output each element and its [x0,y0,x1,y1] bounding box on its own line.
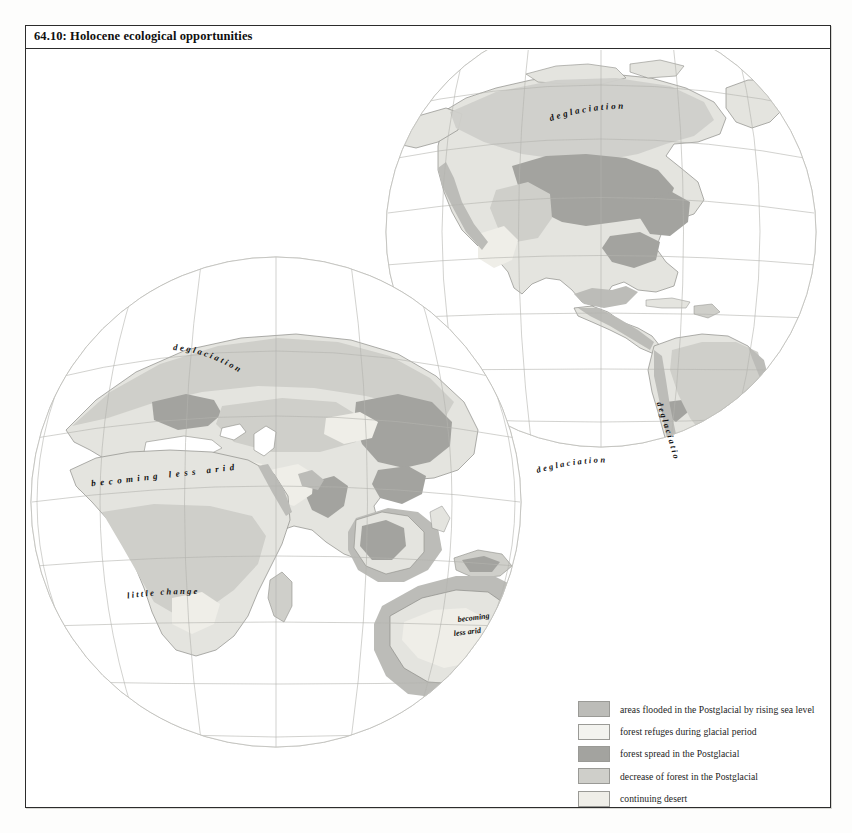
legend-label-desert: continuing desert [620,793,687,804]
legend-swatch-decrease [578,768,610,784]
legend-item-flooded: areas flooded in the Postglacial by risi… [578,698,846,720]
legend-label-spread: forest spread in the Postglacial [620,748,739,759]
legend-swatch-spread [578,746,610,762]
map-legend: areas flooded in the Postglacial by risi… [578,698,846,810]
legend-swatch-flooded [578,701,610,717]
legend-label-decrease: decrease of forest in the Postglacial [620,771,758,782]
map-canvas: deglaciation deglaciation deglaciation d… [26,50,830,807]
legend-item-refuge: forest refuges during glacial period [578,720,846,742]
label-deglaciation-southern-ocean: deglaciation [535,455,607,475]
legend-item-desert: continuing desert [578,788,846,810]
land-tasmania [468,688,488,704]
world-map-svg: deglaciation deglaciation deglaciation d… [26,50,830,807]
legend-swatch-refuge [578,724,610,740]
legend-item-spread: forest spread in the Postglacial [578,743,846,765]
map-plate-page: 64.10: Holocene ecological opportunities [0,0,852,833]
plate-title-bar: 64.10: Holocene ecological opportunities [25,25,831,49]
legend-label-refuge: forest refuges during glacial period [620,726,757,737]
legend-swatch-desert [578,791,610,807]
page-title: 64.10: Holocene ecological opportunities [34,29,253,44]
legend-label-flooded: areas flooded in the Postglacial by risi… [620,704,814,715]
legend-item-decrease: decrease of forest in the Postglacial [578,765,846,787]
